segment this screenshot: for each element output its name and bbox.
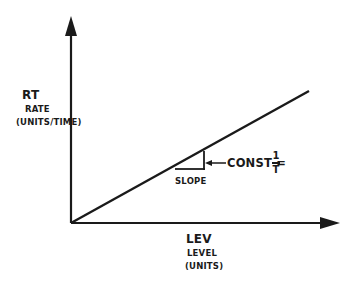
const-pointer-arrowhead-icon [205, 160, 212, 166]
x-axis-arrowhead-icon [320, 217, 340, 229]
diagram-canvas [0, 0, 359, 285]
y-axis-units: (UNITS/TIME) [16, 117, 82, 127]
y-axis-arrowhead-icon [65, 16, 77, 36]
const-numerator: 1 [273, 151, 280, 161]
slope-label: SLOPE [175, 176, 207, 186]
const-fraction: 1 T [272, 151, 280, 175]
x-axis-symbol: LEV [186, 232, 212, 246]
x-axis-name: LEVEL [187, 248, 217, 258]
const-denominator: T [273, 165, 280, 175]
x-axis-units: (UNITS) [185, 261, 223, 271]
y-axis-symbol: RT [22, 88, 39, 102]
y-axis-name: RATE [25, 104, 50, 114]
